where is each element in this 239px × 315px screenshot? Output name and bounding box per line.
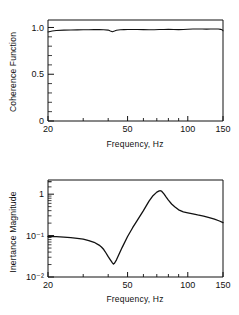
y-tick-label: 0 — [39, 116, 44, 126]
y-tick-label: 10⁻² — [26, 272, 44, 282]
inertance-axes-frame — [48, 180, 223, 277]
y-tick-label: 1 — [39, 189, 44, 199]
y-tick-label: 10⁻¹ — [26, 231, 44, 241]
y-tick-label: 0.5 — [31, 69, 44, 79]
coherence-x-ticks — [48, 116, 223, 121]
inertance-y-axis-title: Inertance Magnitude — [8, 191, 18, 272]
inertance-x-ticks — [48, 272, 223, 277]
x-tick-label: 20 — [43, 280, 53, 290]
x-tick-label: 100 — [180, 280, 195, 290]
coherence-data-curve — [48, 29, 223, 32]
x-tick-label: 50 — [123, 280, 133, 290]
inertance-x-tick-labels: 2050100150 — [43, 280, 231, 290]
panel-inertance: 2050100150 10⁻²10⁻¹1 Frequency, Hz Inert… — [8, 180, 231, 304]
inertance-x-axis-title: Frequency, Hz — [106, 294, 163, 304]
coherence-x-axis-title: Frequency, Hz — [106, 139, 163, 149]
inertance-y-tick-labels: 10⁻²10⁻¹1 — [26, 189, 44, 282]
inertance-y-ticks — [48, 182, 54, 277]
coherence-y-axis-title: Coherence Function — [8, 32, 18, 112]
inertance-data-curve — [48, 191, 223, 264]
y-tick-label: 1.0 — [31, 23, 44, 33]
x-tick-label: 150 — [215, 124, 230, 134]
x-tick-label: 20 — [43, 124, 53, 134]
coherence-axes-frame — [48, 20, 223, 121]
figure-two-panel-frequency-response: 2050100150 00.51.0 Frequency, Hz Coheren… — [0, 0, 239, 315]
coherence-y-tick-labels: 00.51.0 — [31, 23, 44, 127]
panel-coherence: 2050100150 00.51.0 Frequency, Hz Coheren… — [8, 20, 231, 149]
x-tick-label: 50 — [123, 124, 133, 134]
coherence-y-ticks — [48, 27, 54, 121]
coherence-x-tick-labels: 2050100150 — [43, 124, 231, 134]
figure-canvas: 2050100150 00.51.0 Frequency, Hz Coheren… — [0, 0, 239, 315]
x-tick-label: 150 — [215, 280, 230, 290]
x-tick-label: 100 — [180, 124, 195, 134]
